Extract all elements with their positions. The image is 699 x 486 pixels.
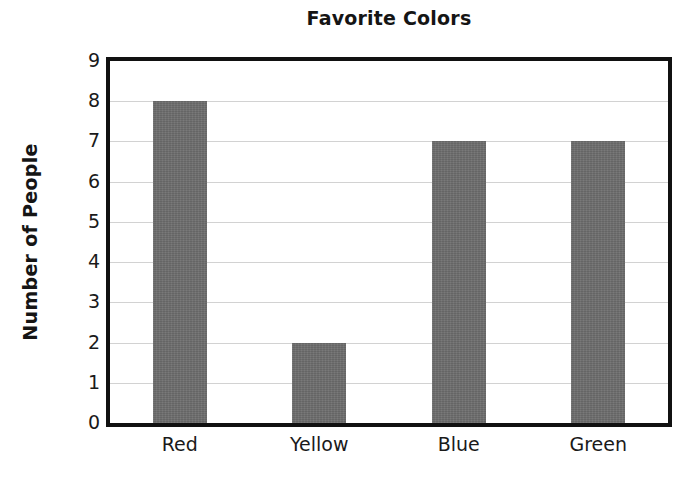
y-axis-tick-labels: 9876543210: [56, 57, 100, 427]
x-tick-label-green: Green: [569, 431, 627, 457]
y-tick-label: 1: [60, 373, 100, 392]
x-axis-tick-labels: RedYellowBlueGreen: [106, 431, 672, 461]
x-tick-label-yellow: Yellow: [290, 431, 349, 457]
y-tick-label: 3: [60, 292, 100, 311]
y-tick-label: 0: [60, 413, 100, 432]
x-tick-label-red: Red: [162, 431, 198, 457]
y-tick-label: 2: [60, 333, 100, 352]
bar-yellow[interactable]: [292, 343, 346, 423]
y-tick-label: 6: [60, 172, 100, 191]
bar-red[interactable]: [153, 101, 207, 423]
bar-chart: Favorite Colors Number of People 9876543…: [0, 0, 699, 486]
y-tick-label: 5: [60, 212, 100, 231]
y-tick-label: 8: [60, 91, 100, 110]
bar-blue[interactable]: [432, 141, 486, 423]
bars-layer: [110, 61, 668, 423]
y-tick-label: 9: [60, 51, 100, 70]
y-tick-label: 7: [60, 131, 100, 150]
chart-title: Favorite Colors: [106, 5, 672, 31]
x-tick-label-blue: Blue: [438, 431, 480, 457]
bar-green[interactable]: [571, 141, 625, 423]
y-axis-title: Number of People: [19, 143, 41, 340]
y-tick-label: 4: [60, 252, 100, 271]
plot-area: [106, 57, 672, 427]
